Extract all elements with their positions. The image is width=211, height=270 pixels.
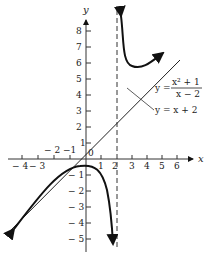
svg-text:8: 8 bbox=[76, 26, 82, 36]
svg-text:x² + 1: x² + 1 bbox=[172, 77, 200, 87]
y-axis-label: y bbox=[82, 4, 89, 15]
curve-right-branch bbox=[121, 16, 163, 67]
asymptote-label-pointer bbox=[127, 88, 154, 110]
svg-text:− 4: − 4 bbox=[12, 161, 28, 171]
svg-text:1: 1 bbox=[80, 138, 86, 148]
svg-text:− 3: − 3 bbox=[68, 202, 84, 212]
svg-text:− 2: − 2 bbox=[44, 145, 60, 155]
svg-text:− 4: − 4 bbox=[68, 218, 84, 228]
svg-text:x − 2: x − 2 bbox=[176, 89, 200, 99]
svg-text:−1: −1 bbox=[63, 145, 76, 155]
svg-text:4: 4 bbox=[144, 161, 150, 171]
svg-text:1: 1 bbox=[98, 161, 104, 171]
svg-text:6: 6 bbox=[76, 58, 82, 68]
svg-text:3: 3 bbox=[129, 161, 135, 171]
svg-text:y =: y = bbox=[154, 83, 171, 93]
svg-text:5: 5 bbox=[159, 161, 165, 171]
svg-text:− 1: − 1 bbox=[68, 170, 84, 180]
x-axis-label: x bbox=[198, 153, 204, 164]
graph-figure: y x − 4 − 3 − 2 −1 0 1 2 3 4 5 6 bbox=[0, 0, 211, 270]
x-ticks bbox=[22, 155, 177, 159]
svg-text:− 2: − 2 bbox=[68, 186, 84, 196]
svg-text:5: 5 bbox=[76, 74, 82, 84]
x-tick-labels: − 4 − 3 − 2 −1 0 1 2 3 4 5 6 bbox=[12, 145, 180, 171]
curve-equation-label: y = x² + 1 x − 2 bbox=[154, 77, 202, 99]
asymptote-equation-label: y = x + 2 bbox=[154, 105, 197, 115]
svg-text:− 3: − 3 bbox=[29, 161, 45, 171]
y-ticks bbox=[86, 31, 91, 239]
svg-text:3: 3 bbox=[76, 106, 82, 116]
svg-text:− 5: − 5 bbox=[68, 234, 84, 244]
svg-text:6: 6 bbox=[174, 161, 180, 171]
svg-text:4: 4 bbox=[76, 90, 82, 100]
y-tick-labels: 8 7 6 5 4 3 2 1 − 1 − 2 − 3 − 4 − 5 bbox=[68, 26, 86, 244]
svg-text:2: 2 bbox=[76, 122, 82, 132]
svg-text:7: 7 bbox=[76, 42, 82, 52]
